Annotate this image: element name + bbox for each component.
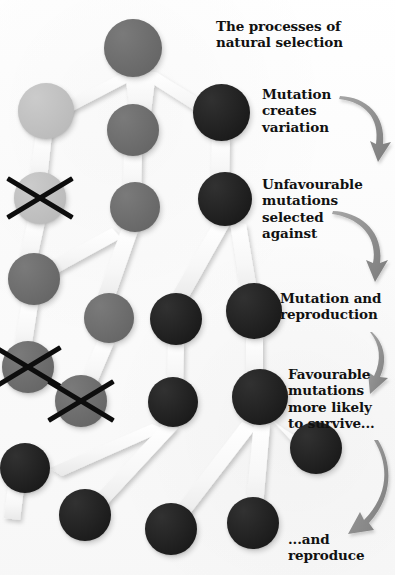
- organism-node: [193, 84, 250, 141]
- cross-out-icon: [43, 363, 119, 439]
- step-label-and-reproduce: ...and reproduce: [288, 531, 364, 564]
- organism-node: [59, 489, 111, 541]
- cross-out-icon: [2, 160, 78, 236]
- step-label-mutation-creates-variation: Mutation creates variation: [262, 86, 331, 135]
- curved-arrow-icon-1: [332, 96, 394, 168]
- organism-node: [232, 369, 288, 425]
- organism-node: [145, 503, 197, 555]
- organism-node: [104, 19, 162, 77]
- organism-node: [8, 253, 60, 305]
- organism-node: [18, 83, 74, 139]
- organism-node: [84, 293, 134, 343]
- organism-node: [0, 443, 50, 493]
- organism-node: [150, 293, 202, 345]
- organism-node: [107, 104, 159, 156]
- natural-selection-infographic: The processes of natural selection Mutat…: [0, 0, 395, 575]
- step-label-unfavourable-mutations: Unfavourable mutations selected against: [262, 176, 363, 242]
- curved-arrow-icon-4: [330, 440, 394, 540]
- organism-node: [226, 283, 282, 339]
- organism-node: [198, 172, 252, 226]
- page-title: The processes of natural selection: [216, 18, 343, 51]
- organism-node: [227, 497, 279, 549]
- step-label-mutation-and-reproduction: Mutation and reproduction: [280, 290, 381, 323]
- organism-node: [148, 377, 198, 427]
- step-label-favourable-mutations: Favourable mutations more likely to surv…: [288, 366, 375, 432]
- organism-node: [110, 182, 160, 232]
